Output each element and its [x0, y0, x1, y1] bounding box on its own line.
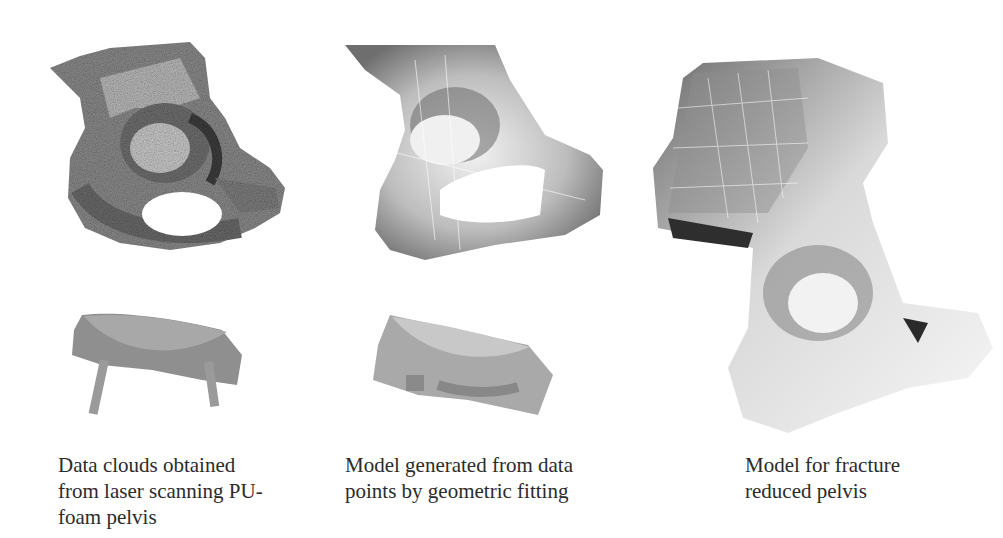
caption-line: from laser scanning PU-: [58, 478, 263, 504]
geometric-fit-fragment-image: [368, 305, 568, 425]
fracture-reduced-pelvis-image: [648, 48, 998, 438]
caption-line: Model generated from data: [345, 452, 573, 478]
caption-line: reduced pelvis: [745, 478, 900, 504]
laser-scan-pelvis-image: [40, 38, 300, 273]
caption-laser-scan: Data clouds obtained from laser scanning…: [58, 452, 263, 530]
caption-line: foam pelvis: [58, 504, 263, 530]
caption-line: Model for fracture: [745, 452, 900, 478]
caption-fracture-reduced: Model for fracture reduced pelvis: [745, 452, 900, 504]
geometric-fit-pelvis-image: [345, 40, 610, 270]
obturator-foramen-hole: [142, 192, 222, 236]
caption-line: Data clouds obtained: [58, 452, 263, 478]
laser-scan-fragment-image: [62, 300, 262, 430]
caption-geometric-fit: Model generated from data points by geom…: [345, 452, 573, 504]
caption-line: points by geometric fitting: [345, 478, 573, 504]
